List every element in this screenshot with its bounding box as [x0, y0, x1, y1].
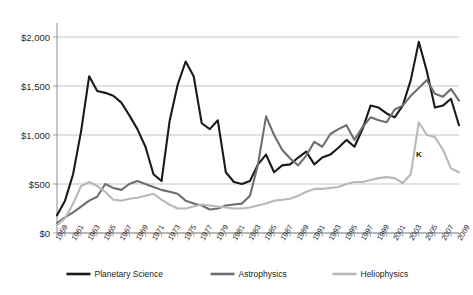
chart-annotation: K [416, 150, 422, 159]
y-axis-group: $0$500$1,000$1,500$2,000 [21, 23, 57, 239]
legend-label-0: Planetary Science [95, 269, 164, 279]
x-axis-tick-label: 2009 [455, 223, 471, 242]
legend-label-2: Heliophysics [361, 269, 409, 279]
y-axis-tick-label: $1,500 [21, 81, 50, 92]
y-axis-tick-label: $500 [29, 179, 50, 190]
y-axis-tick-label: $1,000 [21, 130, 50, 141]
legend-label-1: Astrophysics [239, 269, 287, 279]
series-line-1 [57, 80, 459, 223]
line-chart: $0$500$1,000$1,500$2,000 195919611963196… [0, 0, 473, 295]
annotations-group: K [416, 150, 422, 159]
y-axis-tick-label: $2,000 [21, 32, 50, 43]
chart-container: $0$500$1,000$1,500$2,000 195919611963196… [0, 0, 473, 295]
series-line-2 [57, 122, 459, 225]
y-axis-tick-label: $0 [39, 228, 50, 239]
x-axis-group: 1959196119631965196719691971197319751977… [53, 223, 471, 242]
legend-group: Planetary ScienceAstrophysicsHeliophysic… [67, 269, 409, 279]
series-group [57, 42, 459, 225]
gridlines-group [57, 37, 459, 233]
